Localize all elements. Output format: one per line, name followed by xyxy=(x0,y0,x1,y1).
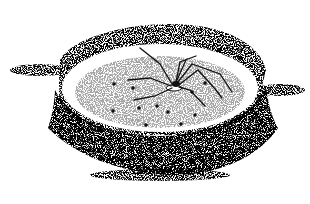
spider-mound-illustration xyxy=(0,0,310,204)
